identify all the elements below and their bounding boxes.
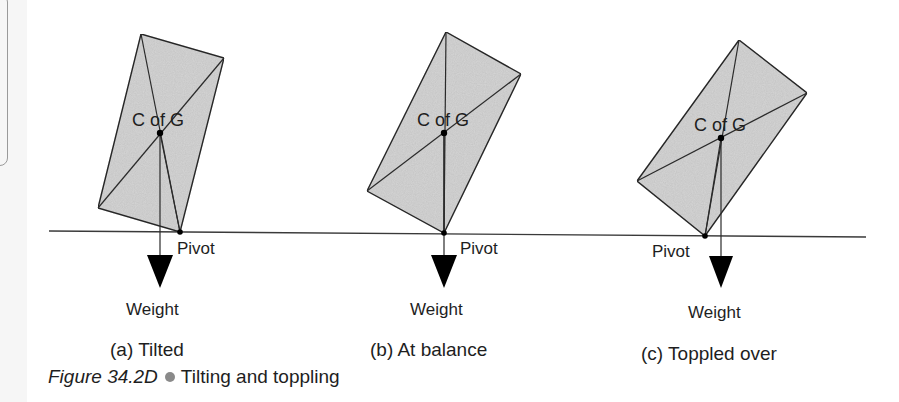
pivot-label: Pivot <box>177 239 215 258</box>
figure-caption: Figure 34.2DTilting and toppling <box>48 366 340 388</box>
panel-caption: (b) At balance <box>370 339 487 360</box>
cog-label: C of G <box>694 115 746 135</box>
weight-arrow-icon <box>709 256 733 288</box>
centre-of-gravity-dot <box>441 130 447 136</box>
panel-caption: (a) Tilted <box>110 339 184 360</box>
panel-at-balance: C of G Pivot Weight (b) At balance <box>367 32 521 360</box>
tilting-toppling-diagram: C of G Pivot Weight (a) Tilted C of G Pi… <box>0 0 899 402</box>
figure-title: Tilting and toppling <box>181 366 340 387</box>
weight-arrow-icon <box>431 255 457 288</box>
cog-label: C of G <box>132 110 184 130</box>
pivot-dot <box>177 229 183 235</box>
panel-caption: (c) Toppled over <box>641 343 778 364</box>
weight-label: Weight <box>126 300 179 319</box>
cog-label: C of G <box>417 110 469 130</box>
weight-arrow-icon <box>147 255 173 288</box>
centre-of-gravity-dot <box>157 130 163 136</box>
pivot-label: Pivot <box>460 239 498 258</box>
figure-number: Figure 34.2D <box>48 366 158 387</box>
weight-label: Weight <box>410 300 463 319</box>
panel-tilted: C of G Pivot Weight (a) Tilted <box>98 34 224 360</box>
bullet-icon <box>165 372 175 382</box>
pivot-label: Pivot <box>652 242 690 261</box>
panel-toppled-over: C of G Pivot Weight (c) Toppled over <box>637 40 807 364</box>
pivot-dot <box>441 230 447 236</box>
weight-label: Weight <box>688 303 741 322</box>
pivot-dot <box>702 233 708 239</box>
ground-line <box>49 231 866 237</box>
centre-of-gravity-dot <box>718 135 724 141</box>
